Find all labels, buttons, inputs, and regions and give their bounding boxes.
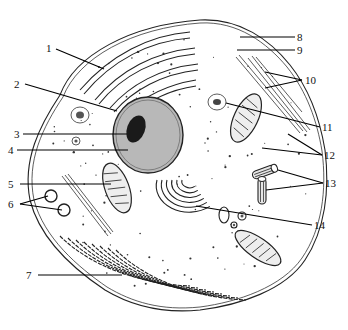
granule	[83, 216, 84, 217]
granule	[81, 120, 82, 121]
granule	[54, 126, 55, 127]
granule	[178, 176, 180, 178]
granule	[277, 236, 279, 238]
granule	[131, 57, 133, 59]
vesicles	[45, 190, 70, 216]
granule	[80, 165, 81, 166]
granule	[229, 155, 231, 157]
granule	[139, 93, 140, 94]
rough-er-strand	[116, 250, 246, 300]
granule	[216, 131, 217, 132]
granule	[106, 272, 108, 274]
granule	[107, 151, 109, 153]
granule	[211, 178, 212, 179]
granule	[110, 244, 111, 245]
granule	[127, 254, 129, 256]
granule	[64, 140, 65, 141]
label-6: 6	[8, 198, 14, 210]
cell-diagram: 1 2 3 4 5 6 7 8 9 10 11 12 13 14	[0, 0, 348, 330]
granule	[162, 260, 164, 262]
granule	[92, 113, 93, 114]
granule	[287, 143, 289, 145]
granule	[102, 153, 103, 154]
label-13: 13	[325, 177, 337, 189]
granule	[148, 256, 150, 258]
golgi-cisterna	[172, 180, 201, 198]
granule	[217, 257, 219, 259]
label-2: 2	[14, 78, 20, 90]
lysosome	[208, 94, 226, 110]
nucleus	[113, 97, 183, 173]
granule	[264, 143, 265, 144]
granule	[134, 285, 136, 287]
label-11: 11	[322, 121, 333, 133]
granule	[248, 205, 250, 207]
leader-6a	[20, 196, 48, 204]
granule	[195, 209, 197, 211]
granule	[189, 257, 191, 259]
granule	[236, 245, 238, 247]
granule	[184, 274, 186, 276]
granule	[126, 96, 128, 98]
label-4: 4	[8, 144, 14, 156]
granule	[213, 57, 214, 58]
granule	[227, 107, 228, 108]
granule	[139, 233, 141, 235]
granule	[243, 263, 244, 264]
granule	[190, 106, 191, 107]
rough-er-strand	[60, 236, 190, 286]
granule	[118, 164, 119, 165]
granule	[305, 193, 306, 194]
granule	[167, 269, 169, 271]
granule	[179, 94, 181, 96]
rough-er-strand	[100, 246, 230, 296]
rough-er-strand	[68, 238, 198, 288]
granule	[92, 144, 94, 146]
granule	[169, 72, 171, 74]
golgi-cisterna	[182, 180, 195, 188]
granule	[207, 150, 209, 152]
leader-10b	[265, 80, 302, 88]
granule	[231, 232, 232, 233]
golgi-cisterna	[161, 180, 206, 207]
granule	[170, 63, 172, 65]
granule	[252, 209, 253, 210]
granule	[73, 151, 75, 153]
granule	[140, 190, 142, 192]
granule	[251, 153, 253, 155]
granule	[147, 53, 148, 54]
label-9: 9	[297, 44, 303, 56]
granule	[52, 142, 54, 144]
granule	[82, 242, 84, 244]
granule	[224, 268, 225, 269]
granule	[304, 134, 306, 136]
granule	[190, 278, 192, 280]
rough-er-strand	[76, 240, 206, 290]
rough-er-strand	[92, 244, 222, 294]
mitochondrion-lower-right	[230, 224, 286, 271]
granule	[198, 88, 200, 90]
mitochondrion-upper-right	[224, 89, 268, 146]
granule	[145, 283, 147, 285]
granule	[153, 91, 155, 93]
granule	[82, 223, 84, 225]
centrioles	[251, 163, 278, 204]
granule	[187, 174, 189, 176]
label-10: 10	[305, 74, 317, 86]
granule	[290, 102, 291, 103]
label-1: 1	[46, 42, 52, 54]
granule	[247, 155, 249, 157]
granule	[163, 272, 165, 274]
label-12: 12	[324, 149, 335, 161]
granule	[254, 265, 256, 267]
label-8: 8	[297, 31, 303, 43]
granule	[225, 165, 226, 166]
label-14: 14	[314, 219, 326, 231]
cell-membrane	[28, 20, 327, 311]
rough-er	[60, 236, 246, 300]
granule	[54, 131, 56, 133]
leader-2	[25, 84, 117, 111]
vesicle-left	[71, 107, 89, 145]
granule	[103, 202, 105, 204]
granule	[89, 124, 91, 126]
